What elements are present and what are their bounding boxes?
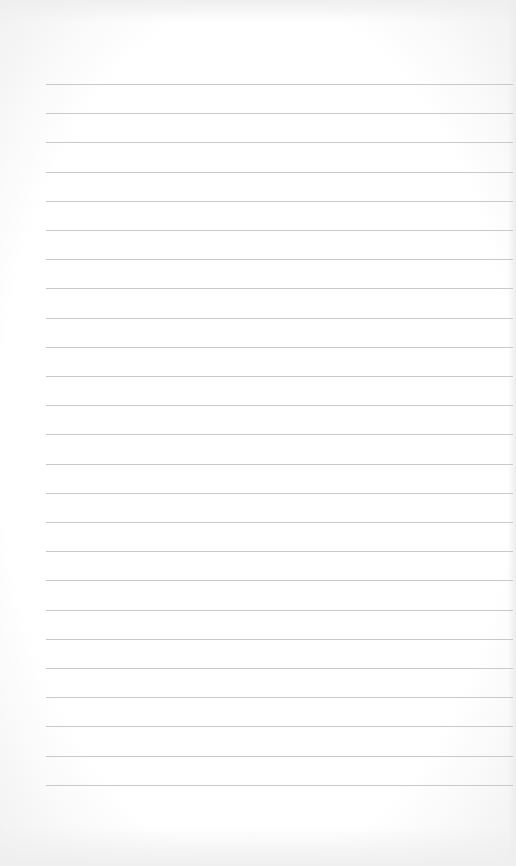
- ruled-line: [46, 434, 513, 435]
- paper-top-shading: [0, 0, 516, 22]
- ruled-line: [46, 376, 513, 377]
- paper-right-shading: [508, 0, 516, 866]
- ruled-line: [46, 639, 513, 640]
- ruled-line: [46, 697, 513, 698]
- ruled-line: [46, 288, 513, 289]
- ruled-line: [46, 580, 513, 581]
- ruled-line: [46, 464, 513, 465]
- ruled-line: [46, 172, 513, 173]
- ruled-line: [46, 259, 513, 260]
- ruled-line: [46, 668, 513, 669]
- ruled-line: [46, 347, 513, 348]
- ruled-line: [46, 726, 513, 727]
- ruled-line: [46, 785, 513, 786]
- lined-paper-sheet: [0, 0, 516, 866]
- ruled-line: [46, 318, 513, 319]
- ruled-line: [46, 405, 513, 406]
- ruled-line: [46, 493, 513, 494]
- ruled-line: [46, 113, 513, 114]
- ruled-line: [46, 610, 513, 611]
- ruled-line: [46, 84, 513, 85]
- ruled-line: [46, 142, 513, 143]
- paper-bottom-shading: [0, 826, 516, 866]
- ruled-line: [46, 201, 513, 202]
- ruled-line: [46, 756, 513, 757]
- ruled-line: [46, 551, 513, 552]
- ruled-line: [46, 230, 513, 231]
- ruled-line: [46, 522, 513, 523]
